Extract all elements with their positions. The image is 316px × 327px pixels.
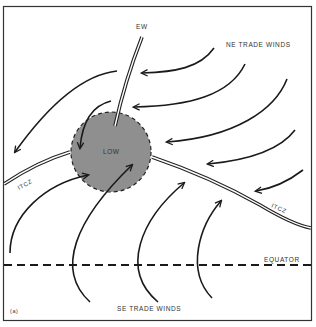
trade-winds-diagram: EW NE TRADE WINDS LOW ITCZ ITCZ EQUATOR … [0,0,316,327]
label-ne-trade-winds: NE TRADE WINDS [226,41,291,48]
figure-frame [4,7,312,321]
label-easterly-wave: EW [136,23,148,30]
label-equator: EQUATOR [264,256,300,264]
label-low: LOW [103,148,120,155]
panel-label: (a) [10,308,19,314]
label-se-trade-winds: SE TRADE WINDS [117,305,181,312]
